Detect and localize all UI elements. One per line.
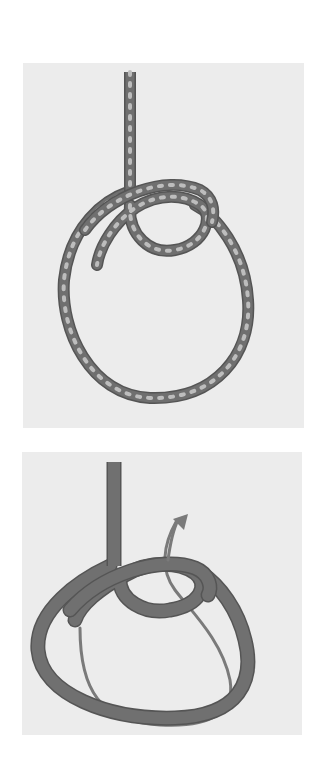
step-2-rope <box>38 462 248 725</box>
knot-diagram <box>0 0 311 765</box>
step-1-rope <box>64 72 249 398</box>
working-end-path <box>80 522 231 725</box>
